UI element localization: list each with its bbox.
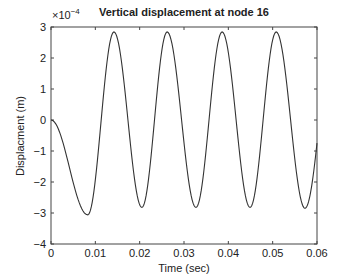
displacement-line [51, 32, 317, 215]
y-tick-label: −1 [33, 145, 46, 157]
y-tick-label: 1 [40, 83, 46, 95]
y-tick-label: −4 [33, 238, 46, 250]
y-tick-label: 3 [40, 21, 46, 33]
y-exponent-label: ×10−4 [52, 7, 80, 21]
x-tick-label: 0.06 [306, 247, 327, 259]
x-tick-label: 0.02 [129, 247, 150, 259]
x-axis-ticks: 00.010.020.030.040.050.06 [48, 27, 328, 259]
x-tick-label: 0.03 [173, 247, 194, 259]
y-axis-label: Displacment (m) [14, 96, 26, 176]
x-tick-label: 0.04 [218, 247, 239, 259]
x-tick-label: 0.05 [262, 247, 283, 259]
y-axis-ticks: −4−3−2−10123 [33, 21, 317, 250]
x-tick-label: 0.01 [85, 247, 106, 259]
svg-text:×10−4: ×10−4 [52, 7, 80, 21]
displacement-chart: Vertical displacement at node 16 ×10−4 0… [0, 0, 344, 280]
y-tick-label: 0 [40, 114, 46, 126]
chart-svg: Vertical displacement at node 16 ×10−4 0… [0, 0, 344, 280]
chart-title: Vertical displacement at node 16 [99, 6, 269, 18]
y-tick-label: 2 [40, 52, 46, 64]
x-axis-label: Time (sec) [158, 262, 210, 274]
x-tick-label: 0 [48, 247, 54, 259]
y-tick-label: −2 [33, 176, 46, 188]
y-tick-label: −3 [33, 207, 46, 219]
plot-area [51, 27, 317, 244]
